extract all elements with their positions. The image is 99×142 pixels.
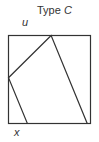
- inscribed-quadrilateral: [9, 36, 88, 124]
- diagram-canvas: [0, 0, 99, 142]
- outer-square: [9, 36, 91, 124]
